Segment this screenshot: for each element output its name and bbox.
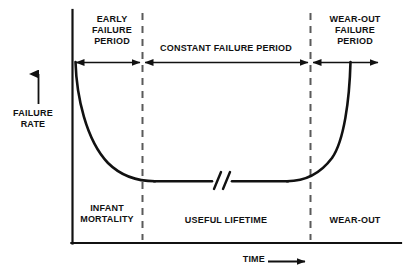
label-useful-lifetime: USEFUL LIFETIME	[166, 215, 286, 226]
label-wear-out: WEAR-OUT	[315, 215, 395, 226]
axis-break-icon	[214, 172, 230, 189]
label-constant-failure-period: CONSTANT FAILURE PERIOD	[146, 43, 306, 54]
curve-wear-out-branch	[287, 62, 351, 181]
label-early-failure-period: EARLY FAILURE PERIOD	[75, 14, 149, 47]
label-infant-mortality: INFANT MORTALITY	[69, 203, 145, 225]
y-axis-label: FAILURE RATE	[0, 108, 66, 130]
label-wear-out-failure-period: WEAR-OUT FAILURE PERIOD	[315, 14, 395, 47]
x-axis-label: TIME	[221, 254, 265, 265]
bathtub-curve-figure: EARLY FAILURE PERIOD CONSTANT FAILURE PE…	[0, 0, 409, 277]
